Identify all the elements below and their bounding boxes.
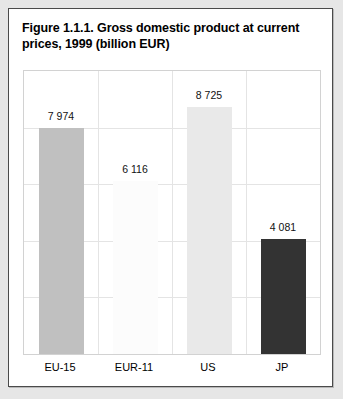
- chart-plot-area: 7 9746 1168 7254 081: [23, 70, 321, 355]
- value-label-jp: 4 081: [243, 221, 323, 233]
- bar-eur-11: [113, 181, 158, 354]
- figure-panel: Figure 1.1.1. Gross domestic product at …: [8, 8, 333, 387]
- category-label-eur-11: EUR-11: [94, 361, 174, 373]
- category-label-us: US: [168, 361, 248, 373]
- category-label-eu-15: EU-15: [20, 361, 100, 373]
- value-label-eu-15: 7 974: [21, 110, 101, 122]
- category-label-jp: JP: [242, 361, 322, 373]
- figure-title: Figure 1.1.1. Gross domestic product at …: [22, 20, 318, 52]
- bar-us: [187, 107, 232, 354]
- bar-jp: [261, 239, 306, 354]
- category-axis: EU-15EUR-11USJP: [23, 356, 321, 382]
- value-label-eur-11: 6 116: [95, 163, 175, 175]
- value-label-us: 8 725: [169, 89, 249, 101]
- bar-eu-15: [39, 128, 84, 354]
